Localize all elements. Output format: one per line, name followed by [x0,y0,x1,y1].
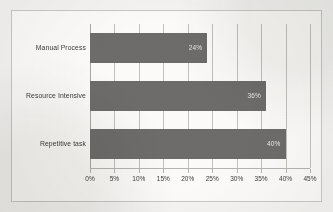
plot-area: 24%36%40% [90,24,310,168]
bar-resource-intensive[interactable]: 36% [90,81,266,111]
x-axis-tick-marks [90,169,310,173]
tick-label-25%: 25% [206,175,219,182]
tick-mark-25% [212,169,213,173]
bar-repetitive-task[interactable]: 40% [90,129,286,159]
tick-label-20%: 20% [181,175,194,182]
tick-label-5%: 5% [110,175,119,182]
category-label-manual-process: Manual Process [36,44,86,51]
tick-mark-20% [188,169,189,173]
category-label-resource-intensive: Resource Intensive [26,92,86,99]
bar-value-label: 24% [189,44,203,51]
tick-label-10%: 10% [132,175,145,182]
bar-row: 40% [90,129,310,159]
tick-label-0%: 0% [85,175,94,182]
bar-manual-process[interactable]: 24% [90,33,207,63]
chart-frame: Manual ProcessResource IntensiveRepetiti… [11,10,322,202]
bars-layer: 24%36%40% [90,24,310,168]
tick-mark-40% [286,169,287,173]
tick-mark-5% [114,169,115,173]
bar-row: 24% [90,33,310,63]
tick-mark-15% [163,169,164,173]
x-axis-tick-labels: 0%5%10%15%20%25%30%35%40%45% [90,175,310,187]
tick-mark-10% [139,169,140,173]
category-axis: Manual ProcessResource IntensiveRepetiti… [17,24,86,168]
tick-label-45%: 45% [303,175,316,182]
bar-row: 36% [90,81,310,111]
tick-label-30%: 30% [230,175,243,182]
tick-mark-30% [237,169,238,173]
bar-value-label: 40% [267,140,281,147]
tick-mark-45% [310,169,311,173]
tick-mark-0% [90,169,91,173]
category-label-repetitive-task: Repetitive task [40,140,86,147]
tick-label-15%: 15% [157,175,170,182]
tick-label-35%: 35% [255,175,268,182]
tick-label-40%: 40% [279,175,292,182]
gridline-45% [310,24,311,168]
tick-mark-35% [261,169,262,173]
bar-value-label: 36% [247,92,261,99]
